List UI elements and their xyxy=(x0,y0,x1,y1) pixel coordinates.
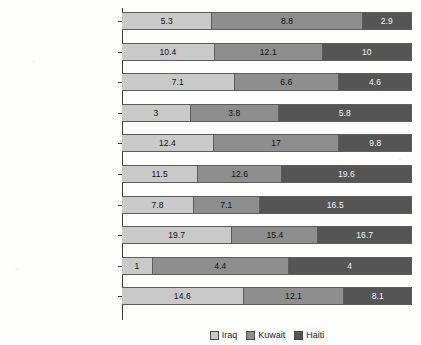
bar-segment-kuwait: 8.8 xyxy=(212,12,362,30)
stacked-bar-chart: I'm not sure5.38.82.9No chance10.412.110… xyxy=(0,0,421,345)
legend-label: Kuwait xyxy=(258,330,285,340)
bar-segment-iraq: 12.4 xyxy=(122,134,214,152)
legend-label: Iraq xyxy=(222,330,238,340)
bar-segment-iraq: 1 xyxy=(122,257,153,275)
bar-segment-haiti: 8.1 xyxy=(344,287,412,305)
bar-row: No chance10.412.110 xyxy=(122,43,412,61)
bar-segment-haiti: 16.5 xyxy=(260,196,412,214)
bar-segment-kuwait: 12.1 xyxy=(215,43,323,61)
bar-segment-kuwait: 6.6 xyxy=(235,73,340,91)
axis-tick xyxy=(118,143,122,144)
legend-item-haiti: Haiti xyxy=(294,330,324,340)
bar-row: Good possibility12.4179.8 xyxy=(122,134,412,152)
bar-segment-iraq: 7.8 xyxy=(122,196,194,214)
bar-row: I plan to retire14.44 xyxy=(122,257,412,275)
bar-segment-kuwait: 17 xyxy=(214,134,340,152)
bar-segment-kuwait: 3.8 xyxy=(191,104,278,122)
bar-segment-haiti: 10 xyxy=(323,43,412,61)
bar-segment-kuwait: 12.1 xyxy=(244,287,345,305)
axis-tick xyxy=(118,266,122,267)
bar-row: Slight possibility7.16.64.6 xyxy=(122,73,412,91)
legend-item-kuwait: Kuwait xyxy=(246,330,285,340)
legend-label: Haiti xyxy=(306,330,324,340)
bar-segment-iraq: 19.7 xyxy=(122,226,232,244)
bar-segment-haiti: 4 xyxy=(289,257,412,275)
bar-segment-haiti: 4.6 xyxy=(339,73,412,91)
bar-segment-iraq: 14.6 xyxy=(122,287,244,305)
axis-tick xyxy=(118,205,122,206)
bar-row: Fair possibiilty33.85.8 xyxy=(122,104,412,122)
bar-segment-haiti: 16.7 xyxy=(318,226,411,244)
bar-segment-iraq: 11.5 xyxy=(122,165,198,183)
axis-tick xyxy=(118,113,122,114)
axis-tick xyxy=(118,235,122,236)
legend-swatch-icon xyxy=(210,331,219,340)
axis-tick xyxy=(118,174,122,175)
bar-segment-haiti: 2.9 xyxy=(363,12,412,30)
bar-segment-iraq: 3 xyxy=(122,104,191,122)
plot-area: I'm not sure5.38.82.9No chance10.412.110… xyxy=(122,8,412,320)
bar-row: I plan to leave the service19.715.416.7 xyxy=(122,226,412,244)
bar-segment-kuwait: 15.4 xyxy=(232,226,318,244)
chart-legend: IraqKuwaitHaiti xyxy=(122,330,412,340)
axis-tick xyxy=(118,21,122,22)
bar-segment-iraq: 10.4 xyxy=(122,43,215,61)
legend-swatch-icon xyxy=(294,331,303,340)
bar-segment-kuwait: 12.6 xyxy=(198,165,282,183)
bar-segment-iraq: 5.3 xyxy=(122,12,212,30)
bar-segment-kuwait: 4.4 xyxy=(153,257,289,275)
axis-tick xyxy=(118,296,122,297)
axis-tick xyxy=(118,82,122,83)
bar-segment-iraq: 7.1 xyxy=(122,73,235,91)
bar-row: I do not wish to retrain another skill14… xyxy=(122,287,412,305)
bar-row: Certain7.87.116.5 xyxy=(122,196,412,214)
bar-segment-kuwait: 7.1 xyxy=(194,196,260,214)
bar-segment-haiti: 5.8 xyxy=(279,104,412,122)
legend-item-iraq: Iraq xyxy=(210,330,238,340)
axis-tick xyxy=(118,52,122,53)
legend-swatch-icon xyxy=(246,331,255,340)
bar-segment-haiti: 9.8 xyxy=(339,134,412,152)
bar-row: I'm not sure5.38.82.9 xyxy=(122,12,412,30)
bar-segment-haiti: 19.6 xyxy=(282,165,412,183)
bar-row: Very probably11.512.619.6 xyxy=(122,165,412,183)
